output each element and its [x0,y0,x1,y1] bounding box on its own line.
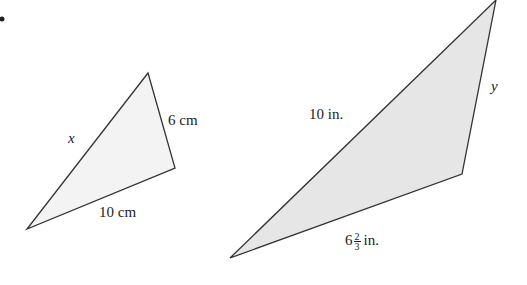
mixed-fraction-whole: 6 [345,232,353,248]
large-triangle-side-10in-label: 10 in. [309,107,343,122]
small-triangle-side-6cm-label: 6 cm [168,113,198,128]
fraction-denominator: 3 [355,242,360,251]
large-triangle-side-mixed-fraction-label: 623in. [345,232,379,251]
small-triangle-side-x-label: x [68,131,75,146]
bullet-dot [0,17,5,22]
fraction: 23 [354,232,361,251]
large-triangle [230,0,496,258]
unit-label: in. [364,232,379,248]
figure-canvas [0,0,527,285]
large-triangle-side-y-label: y [491,79,498,94]
small-triangle-side-10cm-label: 10 cm [99,205,136,220]
